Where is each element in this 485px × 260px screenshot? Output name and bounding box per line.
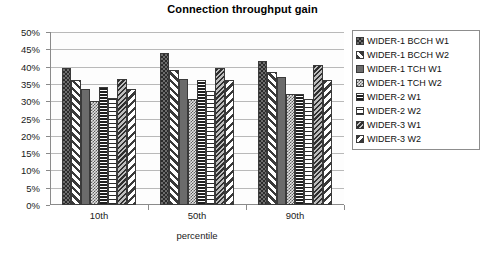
bars-layer xyxy=(50,32,344,205)
y-axis-tick xyxy=(46,32,50,33)
bar xyxy=(127,89,136,205)
legend-item: WIDER-2 W1 xyxy=(356,90,476,104)
legend-item: WIDER-3 W2 xyxy=(356,132,476,146)
legend-label: WIDER-2 W1 xyxy=(367,93,421,102)
legend-swatch-icon xyxy=(356,121,364,129)
y-axis-tick xyxy=(46,136,50,137)
y-axis-tick-label: 20% xyxy=(21,131,40,140)
legend-label: WIDER-1 TCH W2 xyxy=(367,79,442,88)
legend-label: WIDER-1 BCCH W2 xyxy=(367,51,449,60)
y-axis-tick-label: 40% xyxy=(21,62,40,71)
bar xyxy=(304,99,313,205)
y-axis-tick-label: 45% xyxy=(21,45,40,54)
y-axis-tick-label: 10% xyxy=(21,166,40,175)
legend-label: WIDER-3 W1 xyxy=(367,121,421,130)
legend-item: WIDER-3 W1 xyxy=(356,118,476,132)
y-axis-tick-label: 25% xyxy=(21,114,40,123)
bar xyxy=(99,87,108,205)
y-axis-tick xyxy=(46,67,50,68)
bar xyxy=(206,91,215,205)
legend-item: WIDER-1 BCCH W1 xyxy=(356,34,476,48)
x-axis-tick-label: 50th xyxy=(148,210,246,221)
bar xyxy=(313,65,322,205)
bar xyxy=(117,79,126,205)
chart-legend: WIDER-1 BCCH W1WIDER-1 BCCH W2WIDER-1 TC… xyxy=(352,30,480,150)
y-axis-tick xyxy=(46,84,50,85)
bar xyxy=(108,98,117,205)
legend-swatch-icon xyxy=(356,51,364,59)
y-axis-tick xyxy=(46,101,50,102)
chart-container: Connection throughput gain 50%45%40%35%3… xyxy=(0,0,485,260)
y-axis-tick-label: 0% xyxy=(26,201,40,210)
legend-swatch-icon xyxy=(356,135,364,143)
legend-swatch-icon xyxy=(356,107,364,115)
legend-label: WIDER-2 W2 xyxy=(367,107,421,116)
bar xyxy=(62,68,71,205)
legend-label: WIDER-1 TCH W1 xyxy=(367,65,442,74)
bar xyxy=(71,80,80,205)
legend-swatch-icon xyxy=(356,93,364,101)
y-axis-tick xyxy=(46,205,50,206)
bar xyxy=(197,80,206,205)
x-axis-tick-label: 10th xyxy=(50,210,148,221)
x-axis-labels: 10th50th90th xyxy=(50,210,344,224)
bar xyxy=(90,101,99,205)
legend-swatch-icon xyxy=(356,79,364,87)
legend-item: WIDER-1 BCCH W2 xyxy=(356,48,476,62)
bar xyxy=(160,53,169,205)
legend-item: WIDER-1 TCH W1 xyxy=(356,62,476,76)
y-axis-tick-label: 15% xyxy=(21,149,40,158)
legend-label: WIDER-1 BCCH W1 xyxy=(367,37,449,46)
bar xyxy=(267,72,276,205)
legend-label: WIDER-3 W2 xyxy=(367,135,421,144)
bar xyxy=(295,94,304,205)
bar xyxy=(188,99,197,205)
bar xyxy=(179,79,188,205)
legend-swatch-icon xyxy=(356,37,364,45)
bar xyxy=(169,70,178,205)
bar xyxy=(225,80,234,205)
y-axis-tick-label: 35% xyxy=(21,79,40,88)
x-axis-tick-label: 90th xyxy=(246,210,344,221)
y-axis-tick-label: 30% xyxy=(21,97,40,106)
x-axis-tick xyxy=(148,205,149,210)
bar xyxy=(277,77,286,205)
legend-swatch-icon xyxy=(356,65,364,73)
legend-item: WIDER-1 TCH W2 xyxy=(356,76,476,90)
bar xyxy=(258,61,267,205)
y-axis-tick xyxy=(46,170,50,171)
y-axis-tick xyxy=(46,119,50,120)
y-axis-labels: 50%45%40%35%30%25%20%15%10%5%0% xyxy=(0,32,46,205)
bar xyxy=(286,94,295,205)
legend-item: WIDER-2 W2 xyxy=(356,104,476,118)
y-axis-tick-label: 50% xyxy=(21,28,40,37)
y-axis-tick-label: 5% xyxy=(26,183,40,192)
y-axis-tick xyxy=(46,153,50,154)
y-axis-tick xyxy=(46,49,50,50)
bar xyxy=(215,68,224,205)
bar xyxy=(323,80,332,205)
x-axis-tick xyxy=(246,205,247,210)
x-axis-tick xyxy=(344,205,345,210)
x-axis-title: percentile xyxy=(50,230,344,241)
y-axis-tick xyxy=(46,188,50,189)
chart-title: Connection throughput gain xyxy=(0,3,485,15)
bar xyxy=(81,89,90,205)
